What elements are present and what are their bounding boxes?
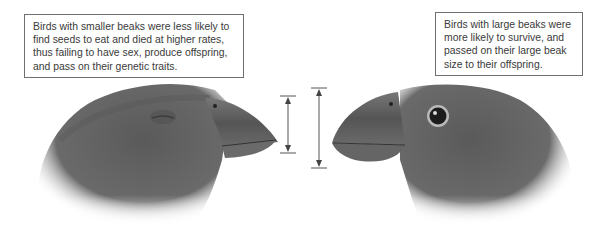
finch-illustration [0, 0, 607, 228]
large-beak-finch [320, 85, 607, 228]
small-beak-finch [0, 84, 300, 228]
large-beak-measurement-arrow [311, 88, 327, 168]
open-eye-icon [427, 105, 449, 127]
small-beak-measurement-arrow [280, 96, 296, 153]
